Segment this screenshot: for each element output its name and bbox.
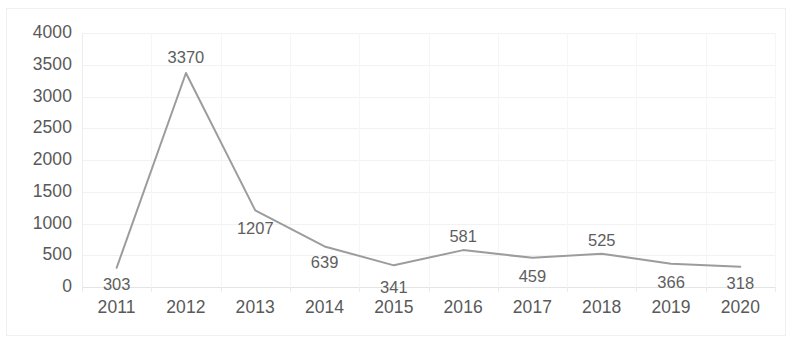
y-axis-ticks: 40003500300025002000150010005000 <box>8 33 72 287</box>
plot-area <box>82 33 775 287</box>
y-axis-tick-label: 2500 <box>8 119 72 137</box>
x-axis-tick-mark <box>636 287 637 292</box>
x-axis-tick-mark <box>429 287 430 292</box>
series-line <box>82 33 775 287</box>
x-axis-tick-mark <box>82 287 83 292</box>
y-axis-tick-label: 4000 <box>8 24 72 42</box>
y-axis-tick-label: 2000 <box>8 151 72 169</box>
x-axis-tick-mark <box>775 287 776 292</box>
x-axis-tick-mark <box>567 287 568 292</box>
x-axis-ticks: 2011201220132014201520162017201820192020 <box>82 299 775 329</box>
x-axis-tick-mark <box>290 287 291 292</box>
x-axis-tick-mark <box>359 287 360 292</box>
y-axis-tick-label: 3000 <box>8 88 72 106</box>
series-polyline <box>117 73 741 268</box>
y-axis-tick-label: 1500 <box>8 183 72 201</box>
gridline-vertical <box>775 33 776 287</box>
y-axis-tick-label: 3500 <box>8 56 72 74</box>
x-axis-tick-mark <box>151 287 152 292</box>
x-axis-tick-mark <box>221 287 222 292</box>
x-axis-tick-mark <box>706 287 707 292</box>
y-axis-tick-label: 500 <box>8 246 72 264</box>
y-axis-tick-label: 1000 <box>8 215 72 233</box>
y-axis-tick-label: 0 <box>8 278 72 296</box>
x-axis-tick-label: 2020 <box>695 299 785 317</box>
x-axis-tick-mark <box>498 287 499 292</box>
line-chart: 40003500300025002000150010005000 2011201… <box>0 0 795 338</box>
